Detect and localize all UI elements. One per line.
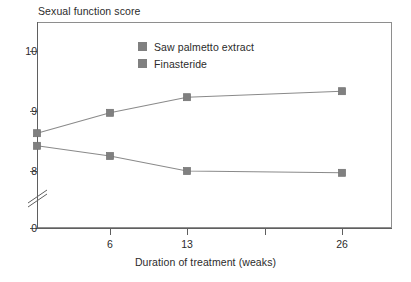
data-point-marker: [34, 142, 41, 149]
data-point-marker: [107, 153, 114, 160]
series-1: [34, 88, 346, 137]
legend-item: Saw palmetto extract: [138, 38, 254, 55]
data-point-marker: [184, 94, 191, 101]
chart-container: Sexual function score 10980 61326 Durati…: [0, 0, 411, 282]
legend: Saw palmetto extractFinasteride: [138, 38, 254, 72]
data-point-marker: [339, 88, 346, 95]
data-point-marker: [184, 168, 191, 175]
legend-swatch-icon: [138, 59, 147, 68]
data-point-marker: [34, 130, 41, 137]
legend-swatch-icon: [138, 42, 147, 51]
data-point-marker: [107, 109, 114, 116]
legend-label: Saw palmetto extract: [154, 41, 254, 53]
series-2: [34, 142, 346, 176]
legend-item: Finasteride: [138, 55, 254, 72]
legend-label: Finasteride: [154, 58, 207, 70]
data-point-marker: [339, 169, 346, 176]
